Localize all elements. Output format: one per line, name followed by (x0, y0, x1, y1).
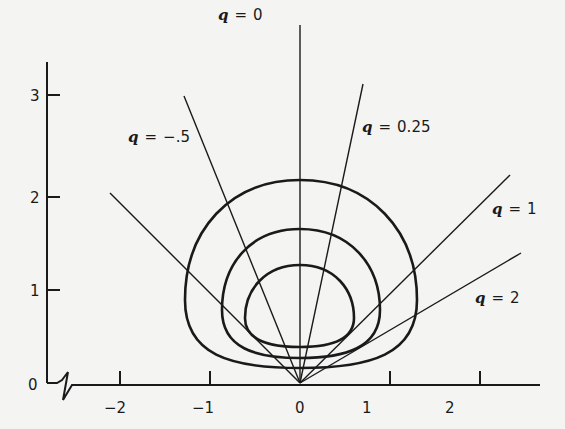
x-tick-1: 1 (362, 399, 372, 417)
label-q2: q=2 (475, 289, 520, 307)
y-tick-2: 2 (30, 189, 40, 207)
diagram-canvas: 3 2 1 0 −2 −1 0 1 2 q=0 q=−.5 q=0.25 q=1… (0, 0, 565, 429)
curve-outer (185, 180, 417, 368)
y-tick-0: 0 (28, 376, 38, 394)
y-tick-3: 3 (30, 87, 40, 105)
label-qneg05: q=−.5 (128, 128, 190, 146)
x-tick-2: 2 (445, 399, 455, 417)
label-q1: q=1 (492, 200, 537, 218)
ray-qneg05 (184, 96, 300, 383)
ray-q1 (300, 175, 510, 383)
ray-unlabeled (110, 193, 300, 383)
x-tick-neg2: −2 (104, 399, 126, 417)
y-tick-1: 1 (30, 282, 40, 300)
curves (185, 180, 417, 368)
x-axis (47, 371, 540, 400)
x-tick-0: 0 (295, 399, 305, 417)
label-q0: q=0 (218, 6, 263, 24)
ray-q2 (300, 253, 521, 383)
label-q025: q=0.25 (362, 118, 430, 136)
y-axis (47, 62, 60, 383)
x-tick-neg1: −1 (192, 399, 214, 417)
curve-middle (222, 229, 380, 358)
rays (110, 25, 521, 383)
